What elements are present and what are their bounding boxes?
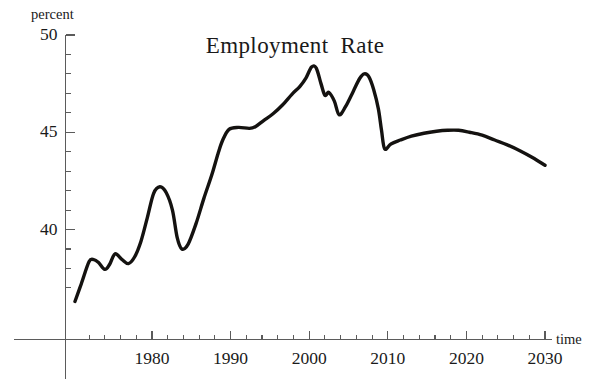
employment-rate-chart: EmploymentRate percent time 404550 19801… xyxy=(0,0,590,379)
employment-rate-line xyxy=(75,66,545,302)
x-tick-label: 2000 xyxy=(279,350,339,368)
y-tick-label: 50 xyxy=(28,26,58,44)
x-tick-label: 1990 xyxy=(201,350,261,368)
x-tick-label: 2020 xyxy=(436,350,496,368)
x-tick-label: 2030 xyxy=(515,350,575,368)
x-tick-label: 1980 xyxy=(122,350,182,368)
x-axis xyxy=(14,331,552,340)
y-axis xyxy=(66,35,75,379)
x-tick-label: 2010 xyxy=(358,350,418,368)
y-tick-label: 45 xyxy=(28,123,58,141)
chart-plot-area xyxy=(0,0,590,379)
y-tick-label: 40 xyxy=(28,221,58,239)
